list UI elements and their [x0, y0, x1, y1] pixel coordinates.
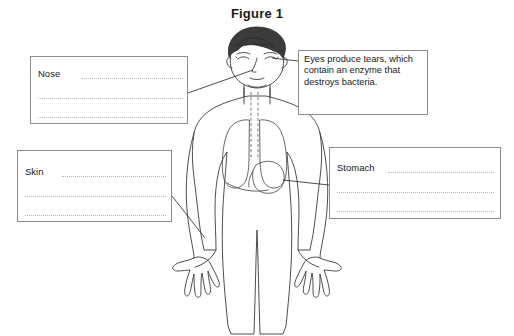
- leader-line-stomach: [283, 180, 329, 185]
- leader-line-skin: [172, 196, 205, 238]
- leader-line-eyes: [272, 58, 298, 61]
- leader-lines: [0, 0, 514, 336]
- leader-line-nose: [188, 70, 253, 93]
- figure-page: Figure 1: [0, 0, 514, 336]
